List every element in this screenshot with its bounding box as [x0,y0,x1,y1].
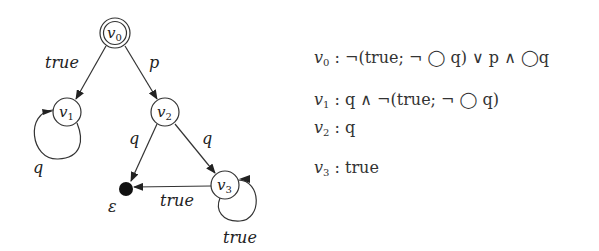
edge-v2-eps: q [129,124,157,181]
formula-v1: v1 : q ∧ ¬(true; ¬ ◯ q) [314,90,499,110]
edge-v0-v1: true [45,46,106,99]
node-v1: v1 [53,98,81,126]
edge-v3-eps: true [134,186,211,210]
edge-label-v3-eps: true [160,191,194,210]
node-v3: v3 [211,171,239,199]
node-v0: v0 [100,18,130,48]
automaton-graph: true p q q q true true v0 v1 v2 [0,0,599,251]
edge-label-v3-loop: true [223,228,257,247]
edge-v2-v3: q [175,124,215,173]
formula-v3: v3 : true [314,158,379,178]
node-epsilon: ε [108,182,133,216]
formula-v0: v0 : ¬(true; ¬ ◯ q) ∨ p ∧ ◯q [314,48,549,68]
edge-label-v2-eps: q [129,129,139,148]
epsilon-label: ε [108,197,117,216]
edge-label-v2-v3: q [202,129,212,148]
node-v2: v2 [151,98,179,126]
formula-v2: v2 : q [314,118,355,138]
edge-v0-v2: p [125,46,159,99]
edge-label-v1-loop: q [33,158,43,177]
edge-label-v0-v1: true [45,53,79,72]
edge-label-v0-v2: p [149,53,159,72]
